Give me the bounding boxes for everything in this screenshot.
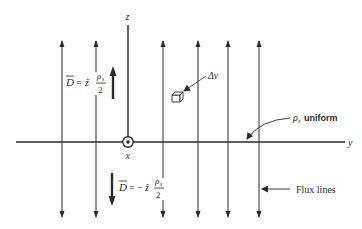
z-axis-label: z (125, 11, 130, 22)
d-field-down-arrow (109, 173, 116, 206)
svg-text:s: s (298, 118, 301, 124)
svg-text:2: 2 (156, 190, 161, 200)
y-axis-label: y (347, 137, 353, 148)
x-axis-out-of-page-icon (123, 137, 133, 147)
flux-lines-label: Flux lines (296, 184, 336, 195)
d-field-up-arrow (110, 66, 117, 99)
svg-text:D: D (65, 76, 74, 88)
d-field-below-equation: D = − ẑ ρ s 2 (118, 176, 164, 200)
volume-label: Δv (207, 70, 219, 81)
svg-text:D: D (118, 181, 127, 193)
svg-text:2: 2 (98, 85, 103, 95)
sheet-pointer-arrow (247, 118, 290, 139)
svg-text:ẑ: ẑ (84, 77, 89, 88)
svg-text:ẑ: ẑ (144, 182, 149, 193)
svg-text:uniform: uniform (304, 113, 338, 123)
svg-text:= −: = − (129, 182, 143, 193)
d-field-above-equation: D = ẑ ρ s 2 (65, 71, 106, 95)
volume-element-cube-icon (172, 92, 183, 102)
x-axis-label: x (125, 150, 131, 161)
svg-text:=: = (76, 77, 82, 88)
svg-text:s: s (160, 181, 163, 187)
flux-lines (60, 40, 262, 218)
charge-sheet-diagram: y z x (0, 0, 362, 229)
svg-text:s: s (102, 76, 105, 82)
volume-pointer-arrow (184, 76, 206, 91)
sheet-charge-label: ρ s uniform (292, 112, 338, 124)
